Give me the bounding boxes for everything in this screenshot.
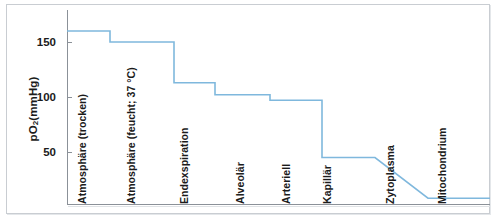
- x-category-label: Zytoplasma: [384, 145, 396, 204]
- x-category-label: Endexspiration: [178, 127, 190, 204]
- x-category-label: Atmosphäre (feucht; 37 °C): [125, 67, 137, 204]
- x-category-label: Alveolär: [234, 162, 246, 204]
- x-category-label: Kapillär: [321, 165, 333, 204]
- x-category-label: Mitochondrium: [436, 128, 448, 204]
- po2-cascade-figure: pO2 (mmHg) 15010050 Atmosphäre (trocken)…: [0, 0, 496, 218]
- po2-cascade-line: [0, 0, 496, 218]
- x-category-label: Atmosphäre (trocken): [76, 94, 88, 204]
- x-category-label: Arteriell: [280, 164, 292, 204]
